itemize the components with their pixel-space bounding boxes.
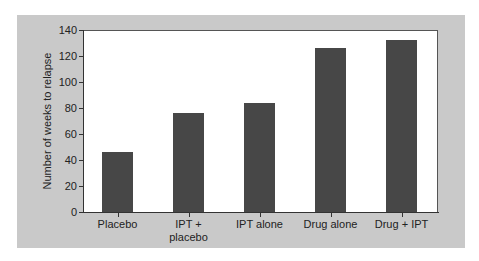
y-tick: [79, 186, 83, 187]
x-tick-label: Placebo: [83, 218, 153, 231]
x-tick: [402, 213, 403, 217]
bar-placebo: [102, 152, 133, 212]
x-tick-label: Drug + IPT: [367, 218, 437, 231]
bar-ipt-placebo: [173, 113, 204, 212]
y-axis: [83, 30, 84, 213]
y-tick-label: 40: [47, 154, 77, 166]
y-tick-label: 60: [47, 128, 77, 140]
y-tick-label: 20: [47, 180, 77, 192]
y-tick: [79, 212, 83, 213]
y-tick-label: 140: [47, 24, 77, 36]
x-tick: [189, 213, 190, 217]
x-tick-label: IPT alone: [225, 218, 295, 231]
y-tick: [79, 56, 83, 57]
bar-drug-ipt: [386, 40, 417, 212]
x-tick-label: Drug alone: [296, 218, 366, 231]
y-tick-label: 0: [47, 206, 77, 218]
bar-drug-alone: [315, 48, 346, 212]
y-axis-label: Number of weeks to relapse: [41, 53, 53, 190]
y-tick: [79, 134, 83, 135]
x-tick: [260, 213, 261, 217]
y-tick-label: 120: [47, 50, 77, 62]
y-tick-label: 80: [47, 102, 77, 114]
bar-ipt-alone: [244, 103, 275, 212]
x-tick: [331, 213, 332, 217]
y-tick: [79, 30, 83, 31]
y-tick: [79, 160, 83, 161]
x-tick: [118, 213, 119, 217]
y-tick: [79, 82, 83, 83]
x-tick-label: IPT +placebo: [154, 218, 224, 244]
y-tick-label: 100: [47, 76, 77, 88]
y-tick: [79, 108, 83, 109]
x-axis: [83, 212, 439, 213]
